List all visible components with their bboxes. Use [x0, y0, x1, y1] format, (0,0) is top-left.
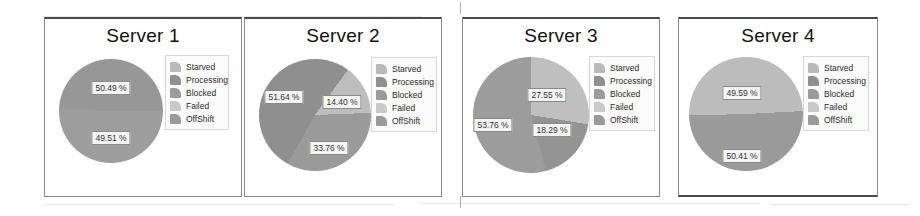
slice-label-server-3-0: 27.55 % — [527, 88, 566, 102]
plot-area-server-3: 27.55 % 18.29 % 53.76 % Starved Processi… — [463, 53, 659, 199]
panel-title-server-2: Server 2 — [245, 25, 441, 47]
panel-server-4[interactable]: Server 4 49.59 % 50.41 % Starved Process… — [678, 17, 878, 197]
legend-swatch-offshift-icon — [170, 114, 181, 124]
legend-label-starved: Starved — [186, 62, 215, 72]
legend-item-failed[interactable]: Failed — [170, 99, 223, 112]
legend-server-4[interactable]: Starved Processing Blocked Failed OffShi… — [803, 56, 869, 131]
legend-item-starved[interactable]: Starved — [808, 61, 863, 74]
panel-server-3[interactable]: Server 3 27.55 % 18.29 % 53.76 % Starved… — [462, 17, 660, 197]
legend-label-processing: Processing — [824, 76, 866, 86]
legend-swatch-blocked-icon — [594, 89, 605, 99]
legend-swatch-offshift-icon — [594, 115, 605, 125]
plot-area-server-1: 50.49 % 49.51 % Starved Processing Block… — [45, 53, 241, 199]
slice-label-server-4-1: 50.41 % — [722, 149, 761, 163]
legend-server-1[interactable]: Starved Processing Blocked Failed OffShi… — [165, 55, 229, 130]
legend-swatch-starved-icon — [376, 64, 387, 74]
legend-label-offshift: OffShift — [392, 116, 420, 126]
legend-swatch-offshift-icon — [376, 116, 387, 126]
legend-item-offshift[interactable]: OffShift — [808, 113, 863, 126]
legend-label-processing: Processing — [186, 75, 228, 85]
legend-swatch-failed-icon — [594, 102, 605, 112]
legend-swatch-blocked-icon — [808, 89, 819, 99]
slice-label-server-3-1: 18.29 % — [532, 123, 571, 137]
slice-label-server-3-2: 53.76 % — [473, 118, 512, 132]
slice-label-server-4-0: 49.59 % — [722, 86, 761, 100]
legend-item-processing[interactable]: Processing — [376, 75, 431, 88]
legend-label-failed: Failed — [186, 101, 209, 111]
slice-label-server-2-0: 51.64 % — [264, 90, 303, 104]
panel-title-server-4: Server 4 — [679, 25, 877, 47]
panel-server-2[interactable]: Server 2 51.64 % 14.40 % 33.76 % Starved… — [244, 17, 442, 197]
legend-item-starved[interactable]: Starved — [170, 60, 223, 73]
legend-item-blocked[interactable]: Blocked — [376, 88, 431, 101]
legend-label-blocked: Blocked — [824, 89, 854, 99]
legend-item-offshift[interactable]: OffShift — [376, 114, 431, 127]
legend-item-processing[interactable]: Processing — [170, 73, 223, 86]
legend-item-failed[interactable]: Failed — [594, 100, 649, 113]
legend-label-failed: Failed — [610, 102, 633, 112]
legend-label-starved: Starved — [392, 64, 421, 74]
panel-server-1[interactable]: Server 1 50.49 % 49.51 % Starved Process… — [44, 17, 242, 197]
panel-title-server-1: Server 1 — [45, 25, 241, 47]
legend-item-blocked[interactable]: Blocked — [594, 87, 649, 100]
legend-label-starved: Starved — [610, 63, 639, 73]
legend-item-starved[interactable]: Starved — [376, 62, 431, 75]
legend-item-offshift[interactable]: OffShift — [170, 112, 223, 125]
legend-swatch-starved-icon — [594, 63, 605, 73]
legend-label-blocked: Blocked — [392, 90, 422, 100]
legend-item-processing[interactable]: Processing — [594, 74, 649, 87]
legend-item-blocked[interactable]: Blocked — [170, 86, 223, 99]
plot-area-server-2: 51.64 % 14.40 % 33.76 % Starved Processi… — [245, 53, 441, 199]
legend-item-failed[interactable]: Failed — [376, 101, 431, 114]
legend-item-blocked[interactable]: Blocked — [808, 87, 863, 100]
legend-swatch-processing-icon — [170, 75, 181, 85]
legend-swatch-failed-icon — [808, 102, 819, 112]
legend-label-blocked: Blocked — [186, 88, 216, 98]
legend-swatch-offshift-icon — [808, 115, 819, 125]
legend-item-failed[interactable]: Failed — [808, 100, 863, 113]
legend-swatch-starved-icon — [170, 62, 181, 72]
legend-server-2[interactable]: Starved Processing Blocked Failed OffShi… — [371, 57, 437, 132]
legend-label-processing: Processing — [392, 77, 434, 87]
slice-label-server-1-0: 50.49 % — [91, 81, 130, 95]
slice-label-server-2-1: 14.40 % — [322, 95, 361, 109]
legend-label-starved: Starved — [824, 63, 853, 73]
legend-item-processing[interactable]: Processing — [808, 74, 863, 87]
slice-label-server-2-2: 33.76 % — [309, 141, 348, 155]
panel-title-server-3: Server 3 — [463, 25, 659, 47]
legend-label-failed: Failed — [824, 102, 847, 112]
legend-server-3[interactable]: Starved Processing Blocked Failed OffShi… — [589, 56, 655, 131]
legend-swatch-processing-icon — [376, 77, 387, 87]
legend-label-offshift: OffShift — [186, 114, 214, 124]
legend-swatch-starved-icon — [808, 63, 819, 73]
legend-swatch-processing-icon — [808, 76, 819, 86]
legend-label-offshift: OffShift — [610, 115, 638, 125]
legend-label-processing: Processing — [610, 76, 652, 86]
legend-label-blocked: Blocked — [610, 89, 640, 99]
legend-item-offshift[interactable]: OffShift — [594, 113, 649, 126]
plot-area-server-4: 49.59 % 50.41 % Starved Processing Block… — [679, 53, 877, 199]
legend-label-failed: Failed — [392, 103, 415, 113]
legend-swatch-blocked-icon — [170, 88, 181, 98]
server-pie-chart-row: Server 1 50.49 % 49.51 % Starved Process… — [0, 0, 920, 216]
legend-swatch-processing-icon — [594, 76, 605, 86]
legend-swatch-failed-icon — [376, 103, 387, 113]
legend-swatch-blocked-icon — [376, 90, 387, 100]
legend-swatch-failed-icon — [170, 101, 181, 111]
legend-label-offshift: OffShift — [824, 115, 852, 125]
slice-label-server-1-1: 49.51 % — [91, 131, 130, 145]
legend-item-starved[interactable]: Starved — [594, 61, 649, 74]
